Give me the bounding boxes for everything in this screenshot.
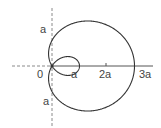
label-3a: 3a bbox=[139, 68, 152, 80]
limacon-diagram: 0 a 2a 3a a a bbox=[0, 0, 161, 128]
label-2a: 2a bbox=[99, 68, 112, 80]
label-y-top-a: a bbox=[40, 23, 47, 35]
label-origin: 0 bbox=[37, 68, 43, 80]
label-loop-a: a bbox=[71, 68, 78, 80]
label-y-bottom-a: a bbox=[43, 95, 50, 107]
origin-point bbox=[50, 64, 53, 67]
